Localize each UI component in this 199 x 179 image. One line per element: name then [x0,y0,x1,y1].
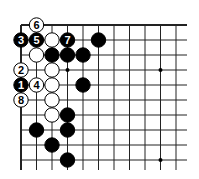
black-stone-move-3: 3 [14,33,28,47]
black-stone [76,48,90,62]
white-stone-icon [45,63,59,77]
black-stone [91,33,105,47]
white-stone [45,78,59,92]
black-stone-icon [60,153,74,167]
move-number-label: 8 [18,94,24,106]
black-stone [60,48,74,62]
white-stone-icon [29,48,43,62]
black-stone [60,153,74,167]
black-stone-icon [60,48,74,62]
black-stone-icon [60,108,74,122]
white-stone-move-2: 2 [14,63,28,77]
black-stone-move-5: 5 [29,33,43,47]
black-stone-icon [45,48,59,62]
star-point-icon [159,158,163,162]
black-stone-move-7: 7 [60,33,74,47]
black-stone-icon [91,33,105,47]
black-stone [45,48,59,62]
white-stone-icon [45,108,59,122]
black-stone [60,123,74,137]
go-board-diagram: 63572148 [0,0,199,179]
white-stone-icon [45,33,59,47]
white-stone [45,108,59,122]
move-number-label: 3 [18,34,24,46]
white-stone [45,33,59,47]
white-stone [45,63,59,77]
white-stone-move-6: 6 [29,18,43,32]
white-stone [45,93,59,107]
black-stone-icon [76,78,90,92]
star-point-icon [66,68,70,72]
move-number-label: 5 [33,34,39,46]
black-stone-move-1: 1 [14,78,28,92]
white-stone-move-8: 8 [14,93,28,107]
black-stone [60,108,74,122]
black-stone [29,123,43,137]
white-stone-icon [45,93,59,107]
move-number-label: 1 [18,79,24,91]
black-stone-icon [76,48,90,62]
white-stone-icon [45,78,59,92]
black-stone-icon [45,138,59,152]
black-stone-icon [60,123,74,137]
black-stone [76,78,90,92]
move-number-label: 6 [33,19,39,31]
move-number-label: 2 [18,64,24,76]
move-number-label: 4 [33,79,40,91]
white-stone-move-4: 4 [29,78,43,92]
move-number-label: 7 [64,34,70,46]
black-stone-icon [29,123,43,137]
white-stone [29,48,43,62]
star-point-icon [159,68,163,72]
black-stone [45,138,59,152]
